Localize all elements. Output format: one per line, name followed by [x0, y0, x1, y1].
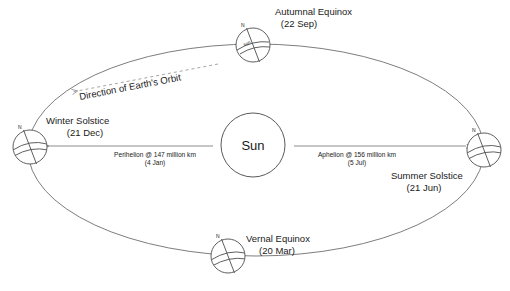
north-pole-icon: N — [241, 22, 245, 28]
winter-solstice-date: (21 Dec) — [67, 127, 103, 138]
autumnal-equinox-date: (22 Sep) — [281, 18, 317, 29]
summer-solstice-date: (21 Jun) — [407, 182, 442, 193]
north-pole-icon: N — [216, 233, 220, 239]
earth-summer-solstice: N — [467, 127, 502, 167]
perihelion-date-label: (4 Jan) — [145, 159, 166, 167]
aphelion-distance-label: Aphelion @ 156 million km — [318, 151, 397, 159]
autumnal-equinox-title: Autumnal Equinox — [275, 6, 352, 17]
north-pole-icon: N — [472, 127, 476, 133]
perihelion-distance-label: Perihelion @ 147 million km — [114, 151, 196, 158]
orbit-diagram: Sun Perihelion @ 147 million km (4 Jan) … — [0, 0, 510, 291]
vernal-equinox-title: Vernal Equinox — [246, 233, 310, 244]
sun-label: Sun — [241, 138, 264, 153]
orbit-direction-group: Direction of Earth's Orbit — [72, 64, 218, 102]
earth-autumnal-equinox: N sun — [236, 22, 270, 62]
vernal-equinox-date: (20 Mar) — [259, 245, 295, 256]
orbit-direction-label: Direction of Earth's Orbit — [78, 71, 182, 102]
earth-vernal-equinox: N — [211, 233, 246, 273]
aphelion-date-label: (5 Jul) — [348, 159, 366, 167]
orbit-diagram-canvas: Sun Perihelion @ 147 million km (4 Jan) … — [0, 0, 510, 291]
winter-solstice-title: Winter Solstice — [46, 115, 109, 126]
north-pole-icon: N — [18, 124, 22, 130]
earth-winter-solstice: N — [13, 124, 48, 164]
summer-solstice-title: Summer Solstice — [391, 170, 463, 181]
